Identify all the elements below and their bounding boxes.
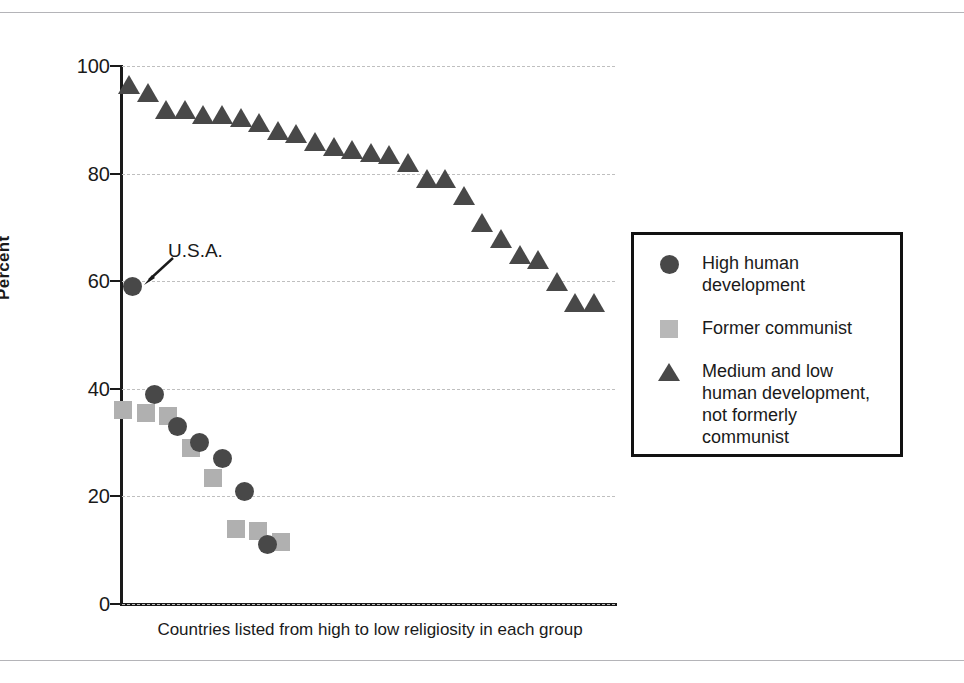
gridline-60 [122,281,615,282]
data-point-triangle [453,186,475,205]
gridline-80 [122,174,615,175]
y-axis-tick-labels: 020406080100 [62,66,110,604]
bottom-divider-rule [0,660,964,661]
legend-label-2: Medium and low human development, not fo… [684,360,870,448]
y-tick-label-0: 0 [99,594,110,614]
gridline-100 [122,66,615,67]
y-tick-label-100: 100 [77,56,110,76]
y-tick-label-40: 40 [88,379,110,399]
plot-area [120,66,615,604]
figure-container: Percent Countries listed from high to lo… [0,0,964,683]
data-point-circle [145,385,164,404]
data-point-circle [190,433,209,452]
legend-triangle-icon [654,360,684,381]
legend-item-medium-low-human-development[interactable]: Medium and low human development, not fo… [654,360,870,448]
top-divider-rule [0,12,964,13]
y-axis-title: Percent [0,236,14,300]
y-tick-80 [110,173,120,175]
legend-item-former-communist[interactable]: Former communist [654,317,852,339]
x-axis-title: Countries listed from high to low religi… [120,620,620,640]
data-point-circle [235,482,254,501]
y-tick-0 [110,603,120,605]
data-point-triangle [527,250,549,269]
legend-label-0: High human development [684,252,805,296]
gridline-0 [122,604,615,605]
gridline-20 [122,496,615,497]
chart-legend: High human development Former communist … [631,232,903,457]
legend-item-high-human-development[interactable]: High human development [654,252,805,296]
y-tick-100 [110,65,120,67]
y-tick-label-80: 80 [88,164,110,184]
data-point-triangle [546,272,568,291]
y-axis-line [120,65,123,605]
legend-circle-icon [654,252,684,274]
data-point-square [114,401,132,419]
data-point-triangle [583,293,605,312]
gridline-40 [122,389,615,390]
y-tick-label-20: 20 [88,486,110,506]
data-point-square [204,469,222,487]
legend-square-icon [654,317,684,338]
legend-label-1: Former communist [684,317,852,339]
y-tick-20 [110,495,120,497]
data-point-circle [213,449,232,468]
y-tick-label-60: 60 [88,271,110,291]
data-point-circle [258,535,277,554]
y-tick-60 [110,280,120,282]
data-point-circle [123,277,142,296]
data-point-square [227,520,245,538]
data-point-square [137,404,155,422]
data-point-circle [168,417,187,436]
usa-annotation-label: U.S.A. [168,240,223,262]
y-tick-40 [110,388,120,390]
